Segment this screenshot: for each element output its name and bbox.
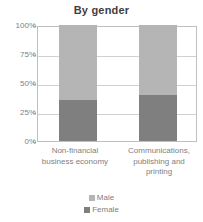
x-axis-category-labels: Non-financialbusiness economy Communicat… xyxy=(37,146,197,190)
y-axis-tick-label: 50% xyxy=(3,80,36,88)
legend-item[interactable]: Male xyxy=(0,192,203,204)
y-axis-tick-label: 0% xyxy=(3,138,36,146)
legend-swatch-female xyxy=(84,207,90,213)
bar-segment-male[interactable] xyxy=(59,25,97,100)
chart-container: By gender 100%75%50%25%0% Non-financialb… xyxy=(0,0,203,222)
x-axis-label-line: Non-financial xyxy=(31,146,119,157)
x-axis-label-line: publishing and xyxy=(115,157,203,168)
plot-area xyxy=(37,26,197,142)
bar-group[interactable] xyxy=(59,25,97,141)
x-axis-label-line: printing xyxy=(115,167,203,178)
chart-legend: MaleFemale xyxy=(0,192,203,216)
bar-group[interactable] xyxy=(139,25,177,141)
y-axis-tick-label: 100% xyxy=(3,22,36,30)
y-axis-tick-label: 25% xyxy=(3,109,36,117)
legend-label-female: Female xyxy=(92,206,119,214)
legend-swatch-male xyxy=(89,195,95,201)
legend-label-male: Male xyxy=(97,194,114,202)
legend-item[interactable]: Female xyxy=(0,204,203,216)
y-axis: 100%75%50%25%0% xyxy=(0,26,36,142)
x-axis-label-0: Non-financialbusiness economy xyxy=(31,146,119,167)
x-axis-label-line: business economy xyxy=(31,157,119,168)
x-axis-label-1: Communications,publishing andprinting xyxy=(115,146,203,178)
x-axis-label-line: Communications, xyxy=(115,146,203,157)
chart-title: By gender xyxy=(0,4,203,16)
bar-segment-male[interactable] xyxy=(139,25,177,95)
y-axis-tick-label: 75% xyxy=(3,51,36,59)
bar-segment-female[interactable] xyxy=(139,95,177,141)
bar-segment-female[interactable] xyxy=(59,100,97,141)
